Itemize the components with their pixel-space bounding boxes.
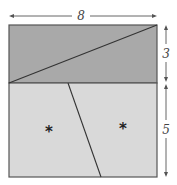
width-dimension: 8 [9, 9, 157, 23]
left-region-mark: * [45, 123, 53, 141]
geometry-diagram: 8 3 5 * * [0, 0, 177, 185]
top-height-label: 3 [162, 47, 170, 61]
bottom-region [9, 83, 157, 177]
bottom-height-label: 5 [162, 123, 170, 137]
top-height-dimension: 3 [162, 25, 170, 82]
width-label: 8 [77, 9, 85, 23]
right-region-mark: * [119, 120, 127, 138]
bottom-height-dimension: 5 [162, 84, 170, 177]
